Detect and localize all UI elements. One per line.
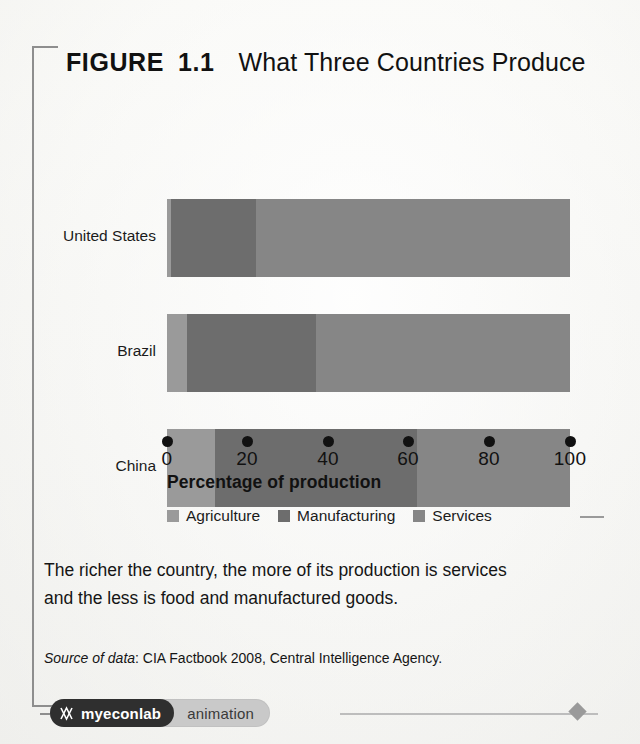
tick-dot-icon [484, 436, 495, 447]
legend-swatch-icon [167, 510, 179, 522]
myeconlab-logo[interactable]: myeconlab [50, 699, 174, 727]
x-axis-tick-40: 40 [298, 436, 358, 468]
animation-label[interactable]: animation [187, 705, 254, 722]
bar-segment-manufacturing [171, 199, 256, 277]
caption-line-2: and the less is food and manufactured go… [44, 584, 604, 612]
myeconlab-badge[interactable]: myeconlab animation [50, 699, 270, 727]
tick-dot-icon [323, 436, 334, 447]
x-axis-tick-0: 0 [137, 436, 197, 468]
tick-dot-icon [242, 436, 253, 447]
figure-number: 1.1 [178, 48, 215, 77]
bar-united-states [167, 199, 570, 277]
x-axis-tick-60: 60 [378, 436, 438, 468]
tick-dot-icon [403, 436, 414, 447]
figure-label: FIGURE [66, 48, 164, 77]
legend-item-agriculture: Agriculture [167, 507, 260, 525]
x-axis-tick-label: 100 [540, 449, 600, 468]
x-axis-tick-20: 20 [217, 436, 277, 468]
chart-legend: Agriculture Manufacturing Services [167, 505, 587, 527]
legend-item-manufacturing: Manufacturing [278, 507, 395, 525]
legend-item-services: Services [413, 507, 491, 525]
stacked-bar-chart: United States Brazil China [0, 95, 640, 435]
brand-econ: econ [103, 705, 139, 722]
x-axis-tick-label: 0 [137, 449, 197, 468]
figure-source: Source of data: CIA Factbook 2008, Centr… [44, 650, 604, 666]
figure-title: FIGURE 1.1 What Three Countries Produce [66, 48, 586, 77]
bar-segment-services [256, 199, 570, 277]
x-axis-tick-label: 60 [378, 449, 438, 468]
footer-rule-right [340, 713, 598, 715]
bar-label-united-states: United States [26, 227, 156, 245]
myeconlab-wordmark: myeconlab [81, 705, 161, 722]
brand-lab: lab [139, 705, 161, 722]
bar-segment-services [316, 314, 570, 392]
legend-label: Services [432, 507, 491, 525]
bar-segment-agriculture [167, 314, 187, 392]
bar-brazil [167, 314, 570, 392]
tick-dot-icon [162, 436, 173, 447]
x-axis-tick-label: 20 [217, 449, 277, 468]
diamond-ornament-icon [568, 702, 586, 720]
x-axis-title: Percentage of production [167, 472, 467, 493]
caption-line-1: The richer the country, the more of its … [44, 556, 604, 584]
legend-label: Agriculture [186, 507, 260, 525]
x-axis-tick-100: 100 [540, 436, 600, 468]
figure-caption: The richer the country, the more of its … [44, 556, 604, 612]
source-text: : CIA Factbook 2008, Central Intelligenc… [135, 650, 442, 666]
legend-label: Manufacturing [297, 507, 395, 525]
figure-page: FIGURE 1.1 What Three Countries Produce … [0, 0, 640, 744]
x-axis-tick-label: 40 [298, 449, 358, 468]
source-prefix: Source of data [44, 650, 135, 666]
figure-bracket-top [32, 46, 58, 48]
legend-rule [580, 516, 604, 518]
legend-swatch-icon [278, 510, 290, 522]
bar-label-brazil: Brazil [26, 342, 156, 360]
figure-footer: myeconlab animation [40, 697, 600, 731]
figure-title-text: What Three Countries Produce [239, 48, 586, 77]
tick-dot-icon [565, 436, 576, 447]
x-axis-tick-label: 80 [459, 449, 519, 468]
legend-swatch-icon [413, 510, 425, 522]
myeconlab-mark-icon [58, 705, 75, 722]
bar-segment-manufacturing [187, 314, 316, 392]
x-axis-tick-80: 80 [459, 436, 519, 468]
brand-my: my [81, 705, 103, 722]
